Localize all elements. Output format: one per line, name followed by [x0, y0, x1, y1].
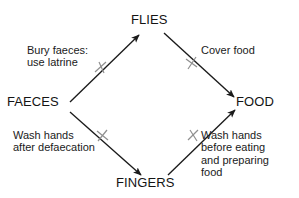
- edge-label-line: Cover food: [201, 44, 255, 56]
- edge-label-wash-hands-after: Wash hands after defaecation: [13, 129, 95, 154]
- node-label-faeces: FAECES: [7, 95, 59, 109]
- edge-label-wash-hands-before: Wash hands before eating and preparing f…: [201, 129, 269, 179]
- edge-label-line: after defaecation: [13, 141, 95, 153]
- node-label-food: FOOD: [236, 95, 274, 109]
- edge-label-line: Wash hands: [201, 129, 269, 141]
- barrier-x-fingers-food: [188, 130, 198, 141]
- arrow-flies-to-food: [164, 33, 234, 97]
- edge-label-line: Wash hands: [13, 129, 95, 141]
- edge-label-line: and preparing: [201, 154, 269, 166]
- edge-label-line: food: [201, 166, 269, 178]
- edge-label-line: before eating: [201, 141, 269, 153]
- edge-label-bury-faeces: Bury faeces: use latrine: [27, 44, 88, 69]
- edge-label-line: use latrine: [27, 56, 88, 68]
- barrier-x-faeces-fingers: [97, 130, 108, 141]
- edge-label-cover-food: Cover food: [201, 44, 255, 56]
- node-label-fingers: FINGERS: [116, 176, 174, 190]
- node-label-flies: FLIES: [131, 13, 168, 27]
- barrier-x-faeces-flies: [95, 62, 106, 73]
- edge-label-line: Bury faeces:: [27, 44, 88, 56]
- f-diagram: FLIES FAECES FOOD FINGERS Bury faeces: u…: [0, 0, 299, 198]
